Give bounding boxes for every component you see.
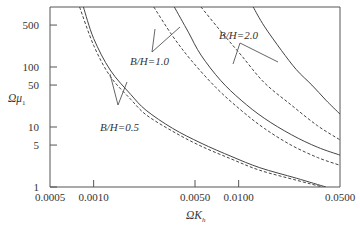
y-tick-label: 5 bbox=[34, 139, 40, 151]
x-tick-label: 0.0010 bbox=[79, 191, 110, 203]
curve-line bbox=[83, 7, 326, 187]
annotation-bh-2-0: B/H=2.0 bbox=[219, 29, 258, 41]
y-tick-label: 50 bbox=[28, 79, 40, 91]
plot-frame bbox=[50, 7, 340, 187]
x-axis-label-sub: h bbox=[202, 216, 206, 224]
x-axis-label-main: ΩK bbox=[186, 209, 203, 221]
annotation-bh-0-5: B/H=0.5 bbox=[100, 121, 139, 133]
y-tick-label: 10 bbox=[28, 121, 40, 133]
chart-svg: 151050100500 0.00050.00100.00500.01000.0… bbox=[0, 0, 360, 228]
x-tick-label: 0.0100 bbox=[224, 191, 255, 203]
y-axis-ticks: 151050100500 bbox=[23, 19, 58, 193]
x-tick-label: 0.0500 bbox=[325, 191, 356, 203]
x-axis-ticks: 0.00050.00100.00500.01000.0500 bbox=[35, 180, 356, 203]
x-tick-label: 0.0050 bbox=[180, 191, 211, 203]
data-curves bbox=[80, 7, 340, 187]
y-axis-label-sub: 1 bbox=[22, 99, 26, 107]
y-axis-label-main: Ωμ bbox=[8, 92, 22, 105]
annotation-bh-1-0: B/H=1.0 bbox=[130, 55, 169, 67]
y-tick-label: 500 bbox=[23, 19, 40, 31]
curve-line bbox=[253, 7, 340, 114]
curve-line bbox=[201, 7, 340, 140]
chart-container: 151050100500 0.00050.00100.00500.01000.0… bbox=[0, 0, 360, 228]
x-axis-label: ΩKh bbox=[186, 209, 206, 224]
x-tick-label: 0.0005 bbox=[35, 191, 66, 203]
y-tick-label: 100 bbox=[23, 61, 40, 73]
y-axis-label: Ωμ1 bbox=[8, 92, 26, 107]
